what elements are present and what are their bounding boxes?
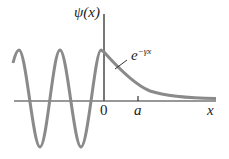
wavefunction-diagram: ψ(x) e−γx 0 a x — [0, 0, 229, 159]
exponential-decay — [104, 52, 216, 99]
decay-base: e — [131, 47, 138, 63]
decay-label: e−γx — [131, 47, 151, 63]
diagram-canvas — [0, 0, 229, 159]
tick-a-label: a — [134, 103, 142, 118]
decay-exponent: −γx — [138, 46, 152, 56]
origin-label: 0 — [100, 103, 108, 118]
x-axis-label: x — [207, 103, 214, 118]
oscillating-wave — [13, 50, 104, 147]
y-axis-label: ψ(x) — [74, 5, 100, 20]
